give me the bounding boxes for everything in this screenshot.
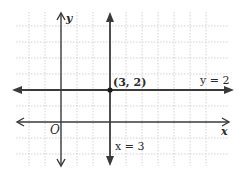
point-label: (3, 2) <box>113 76 146 89</box>
y-axis-label: y <box>65 12 74 25</box>
x-axis <box>17 118 229 126</box>
x-axis-label: x <box>220 125 228 138</box>
line-label-x-equals-3: x = 3 <box>115 140 144 153</box>
coordinate-plane: y x O (3, 2) y = 2 x = 3 <box>0 0 246 173</box>
line-label-y-equals-2: y = 2 <box>199 74 229 87</box>
point-3-2 <box>107 87 112 92</box>
origin-label: O <box>50 123 60 137</box>
